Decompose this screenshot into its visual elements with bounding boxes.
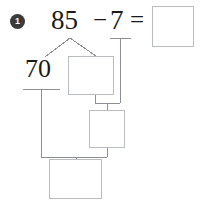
equals-operator: = <box>130 7 144 32</box>
branch-line-right <box>70 38 96 56</box>
tens-part-label: 70 <box>25 56 51 82</box>
subtrahend-value: 7 <box>110 7 124 34</box>
minus-operator: − <box>93 7 107 32</box>
middle-answer-box[interactable] <box>89 110 125 148</box>
math-worksheet-problem: 1 85 − 7 = 70 <box>0 0 203 205</box>
minuend-value: 85 <box>51 7 78 34</box>
problem-number-bullet: 1 <box>10 14 25 29</box>
bottom-answer-box[interactable] <box>49 159 102 199</box>
branch-answer-box[interactable] <box>68 56 114 95</box>
result-answer-box[interactable] <box>152 6 194 47</box>
